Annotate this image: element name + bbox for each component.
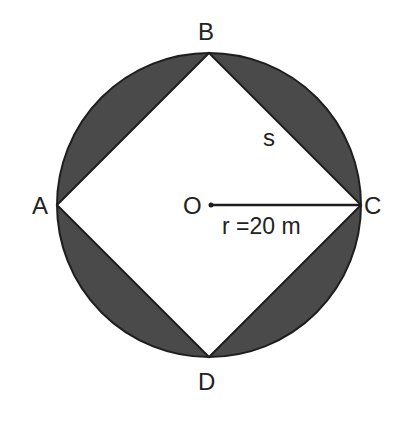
vertex-label-d: D xyxy=(198,368,215,395)
center-point-o xyxy=(209,203,214,208)
radius-label: r =20 m xyxy=(222,213,301,239)
vertex-label-b: B xyxy=(198,18,214,45)
circle-square-diagram: B A C D O s r =20 m xyxy=(0,0,403,426)
side-label-s: s xyxy=(263,124,275,151)
vertex-label-a: A xyxy=(32,192,48,219)
vertex-label-c: C xyxy=(364,192,381,219)
center-label-o: O xyxy=(183,192,202,219)
